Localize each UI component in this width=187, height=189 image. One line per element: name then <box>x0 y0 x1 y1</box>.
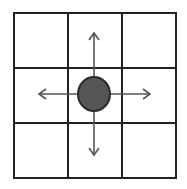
arrow-left-icon <box>39 89 78 99</box>
arrow-right-icon <box>110 89 150 99</box>
arrow-down-icon <box>89 111 99 155</box>
grid-movement-diagram <box>0 0 187 189</box>
arrow-up-icon <box>89 33 99 78</box>
agent-circle <box>78 77 110 111</box>
